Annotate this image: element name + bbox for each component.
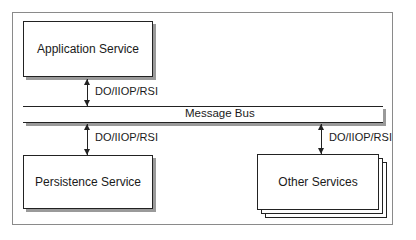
arrow-app-to-bus [87, 79, 88, 106]
arrow-bus-to-other [321, 124, 322, 154]
other-services-box: Other Services [257, 154, 379, 210]
other-services-label: Other Services [278, 175, 357, 189]
protocol-label-other: DO/IIOP/RSI [329, 131, 392, 143]
persistence-service-box: Persistence Service [23, 155, 153, 209]
message-bus-label: Message Bus [185, 107, 255, 119]
protocol-label-app: DO/IIOP/RSI [95, 85, 158, 97]
protocol-label-persistence: DO/IIOP/RSI [95, 131, 158, 143]
persistence-service-label: Persistence Service [35, 175, 141, 189]
arrow-bus-to-persistence [87, 124, 88, 155]
application-service-box: Application Service [23, 21, 153, 77]
application-service-label: Application Service [37, 42, 139, 56]
